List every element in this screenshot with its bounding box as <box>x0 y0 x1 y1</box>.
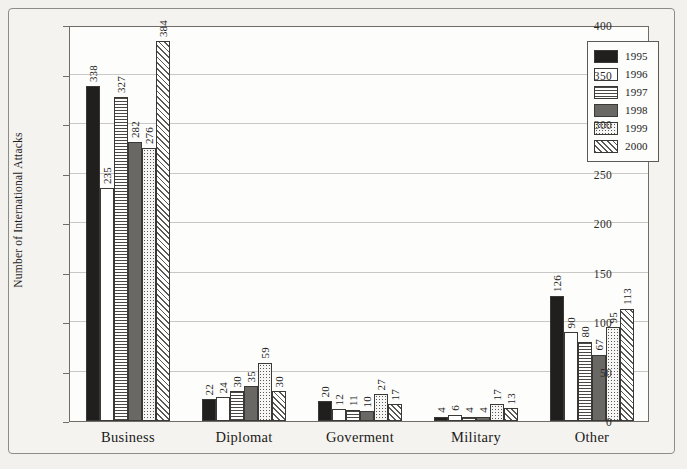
legend-label: 2000 <box>625 140 648 152</box>
y-axis-title: Number of International Attacks <box>12 60 24 360</box>
bar-value-label: 6 <box>449 405 461 411</box>
bar-goverment-1999[interactable]: 27 <box>374 394 388 421</box>
y-axis-tick-label: 0 <box>606 416 612 428</box>
bar-goverment-1998[interactable]: 10 <box>360 411 374 421</box>
bar-goverment-1997[interactable]: 11 <box>346 410 360 421</box>
y-axis-tick-label: 50 <box>600 367 612 379</box>
bar-value-label: 384 <box>157 20 169 37</box>
chart-legend: 199519961997199819992000 <box>587 41 659 162</box>
legend-item-1997[interactable]: 1997 <box>594 83 658 101</box>
bar-value-label: 80 <box>579 326 591 337</box>
bar-business-1998[interactable]: 282 <box>128 142 142 421</box>
bar-value-label: 30 <box>231 376 243 387</box>
bar-value-label: 17 <box>389 389 401 400</box>
bar-other-1995[interactable]: 126 <box>550 296 564 421</box>
bar-value-label: 327 <box>115 76 127 93</box>
bar-value-label: 282 <box>129 121 141 138</box>
bar-group: 201211102717Goverment <box>318 25 402 421</box>
bar-goverment-1996[interactable]: 12 <box>332 409 346 421</box>
y-axis-tick-mark <box>63 422 69 423</box>
bar-value-label: 17 <box>491 389 503 400</box>
x-axis-category-label: Other <box>492 429 687 446</box>
bar-value-label: 11 <box>347 395 359 406</box>
bar-value-label: 4 <box>477 407 489 413</box>
legend-item-2000[interactable]: 2000 <box>594 137 658 155</box>
y-axis-tick-mark <box>63 125 69 126</box>
plot-area: 338235327282276384Business222430355930Di… <box>69 26 649 422</box>
bar-business-2000[interactable]: 384 <box>156 41 170 421</box>
y-axis-tick-label: 350 <box>594 70 612 82</box>
bar-value-label: 13 <box>505 393 517 404</box>
bar-group: 46441713Military <box>434 25 518 421</box>
bar-value-label: 20 <box>319 386 331 397</box>
bar-value-label: 30 <box>273 376 285 387</box>
bar-value-label: 235 <box>101 167 113 184</box>
legend-swatch-1997 <box>594 86 618 99</box>
bar-goverment-1995[interactable]: 20 <box>318 401 332 421</box>
legend-label: 1997 <box>625 86 648 98</box>
bar-military-1995[interactable]: 4 <box>434 417 448 421</box>
y-axis-tick-mark <box>63 76 69 77</box>
bar-value-label: 276 <box>143 127 155 144</box>
bar-value-label: 338 <box>87 65 99 82</box>
bar-value-label: 59 <box>259 347 271 358</box>
bar-other-1996[interactable]: 90 <box>564 332 578 421</box>
bar-military-1998[interactable]: 4 <box>476 417 490 421</box>
bar-other-1998[interactable]: 67 <box>592 355 606 421</box>
bar-value-label: 90 <box>565 317 577 328</box>
legend-swatch-2000 <box>594 140 618 153</box>
bar-military-1999[interactable]: 17 <box>490 404 504 421</box>
bar-value-label: 12 <box>333 394 345 405</box>
bar-value-label: 10 <box>361 396 373 407</box>
bar-value-label: 126 <box>551 275 563 292</box>
bar-diplomat-1995[interactable]: 22 <box>202 399 216 421</box>
legend-swatch-1995 <box>594 50 618 63</box>
legend-swatch-1998 <box>594 104 618 117</box>
y-axis-tick-label: 250 <box>594 169 612 181</box>
y-axis-tick-label: 400 <box>594 20 612 32</box>
y-axis: Number of International Attacks <box>9 9 69 422</box>
bar-diplomat-1996[interactable]: 24 <box>216 397 230 421</box>
bar-value-label: 4 <box>435 407 447 413</box>
legend-label: 1996 <box>625 68 648 80</box>
y-axis-tick-label: 150 <box>594 268 612 280</box>
bar-business-1996[interactable]: 235 <box>100 188 114 421</box>
bar-value-label: 22 <box>203 384 215 395</box>
legend-item-1998[interactable]: 1998 <box>594 101 658 119</box>
legend-label: 1995 <box>625 50 648 62</box>
bar-business-1995[interactable]: 338 <box>86 86 100 421</box>
bar-military-1997[interactable]: 4 <box>462 417 476 421</box>
bar-military-2000[interactable]: 13 <box>504 408 518 421</box>
y-axis-tick-mark <box>63 274 69 275</box>
bar-value-label: 113 <box>621 288 633 305</box>
legend-item-1995[interactable]: 1995 <box>594 47 658 65</box>
bar-diplomat-1999[interactable]: 59 <box>258 363 272 421</box>
legend-label: 1998 <box>625 104 648 116</box>
bar-value-label: 27 <box>375 379 387 390</box>
legend-label: 1999 <box>625 122 648 134</box>
bar-value-label: 67 <box>593 339 605 350</box>
bar-group: 338235327282276384Business <box>86 25 170 421</box>
y-axis-tick-label: 200 <box>594 218 612 230</box>
y-axis-tick-mark <box>63 323 69 324</box>
bar-other-1997[interactable]: 80 <box>578 342 592 421</box>
bar-diplomat-1997[interactable]: 30 <box>230 391 244 421</box>
bar-business-1997[interactable]: 327 <box>114 97 128 421</box>
y-axis-tick-mark <box>63 26 69 27</box>
y-axis-tick-label: 300 <box>594 119 612 131</box>
y-axis-tick-mark <box>63 175 69 176</box>
bar-goverment-2000[interactable]: 17 <box>388 404 402 421</box>
bar-value-label: 4 <box>463 407 475 413</box>
y-axis-tick-mark <box>63 224 69 225</box>
bar-value-label: 35 <box>245 371 257 382</box>
bar-diplomat-1998[interactable]: 35 <box>244 386 258 421</box>
figure-frame: Number of International Attacks 33823532… <box>8 8 675 454</box>
bar-group: 222430355930Diplomat <box>202 25 286 421</box>
bar-value-label: 24 <box>217 382 229 393</box>
y-axis-tick-label: 100 <box>594 317 612 329</box>
bar-business-1999[interactable]: 276 <box>142 148 156 421</box>
bar-diplomat-2000[interactable]: 30 <box>272 391 286 421</box>
bar-military-1996[interactable]: 6 <box>448 415 462 421</box>
bar-other-2000[interactable]: 113 <box>620 309 634 421</box>
y-axis-tick-mark <box>63 373 69 374</box>
